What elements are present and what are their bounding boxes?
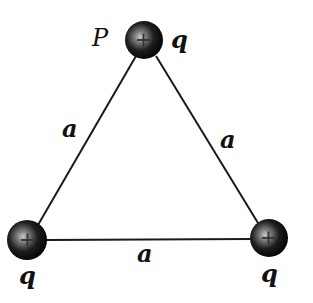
charge-bottom-left <box>7 220 47 260</box>
side-label-bottom: a <box>137 239 153 268</box>
triangle-charge-diagram: P q q q a a a <box>0 0 313 303</box>
side-left <box>38 56 136 225</box>
charge-bottom-right <box>250 219 288 257</box>
charge-label-bottom-right: q <box>261 259 278 288</box>
side-label-right: a <box>220 125 236 154</box>
charge-label-bottom-left: q <box>19 261 36 290</box>
point-label-p: P <box>91 24 109 52</box>
charge-label-top: q <box>171 25 188 54</box>
charge-top <box>125 21 163 59</box>
side-label-left: a <box>62 114 78 143</box>
side-right <box>156 56 258 223</box>
